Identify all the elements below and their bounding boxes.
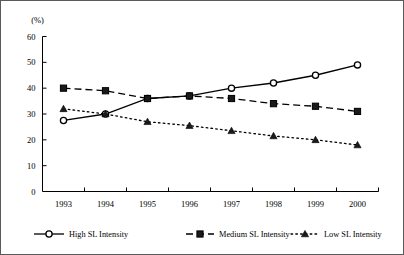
line-chart-svg: (%)0102030405060199319941995199619971998… — [1, 1, 404, 255]
series-marker-1 — [312, 103, 318, 109]
series-marker-0 — [312, 72, 318, 78]
x-axis-tick-label: 2000 — [349, 199, 366, 209]
x-axis-tick-label: 1997 — [223, 199, 240, 209]
y-axis-tick-label: 30 — [27, 109, 36, 119]
y-axis-tick-label: 10 — [27, 161, 36, 171]
series-marker-1 — [354, 108, 360, 114]
y-axis-tick-label: 0 — [31, 187, 35, 197]
y-axis-tick-label: 50 — [27, 57, 36, 67]
series-marker-2 — [60, 105, 67, 111]
x-axis-tick-label: 1996 — [181, 199, 198, 209]
x-axis-tick-label: 1994 — [97, 199, 115, 209]
y-axis-tick-label: 20 — [27, 135, 36, 145]
series-marker-2 — [270, 132, 277, 138]
series-marker-0 — [228, 85, 234, 91]
y-axis-unit-label: (%) — [31, 15, 44, 25]
x-axis-tick-label: 1998 — [265, 199, 282, 209]
series-marker-1 — [144, 95, 150, 101]
x-axis-tick-label: 1999 — [307, 199, 324, 209]
x-axis-tick-label: 1995 — [139, 199, 156, 209]
chart-figure: (%)0102030405060199319941995199619971998… — [0, 0, 404, 255]
series-marker-1 — [270, 101, 276, 107]
y-axis-tick-label: 60 — [27, 32, 36, 42]
legend-marker-1 — [197, 231, 203, 237]
series-marker-0 — [60, 117, 66, 123]
series-marker-0 — [354, 62, 360, 68]
legend-label-1: Medium SL Intensity — [219, 230, 291, 239]
series-marker-1 — [228, 95, 234, 101]
series-marker-1 — [102, 88, 108, 94]
y-axis-tick-label: 40 — [27, 83, 36, 93]
legend-marker-0 — [46, 231, 52, 237]
x-axis-tick-label: 1993 — [55, 199, 72, 209]
series-marker-1 — [60, 85, 66, 91]
series-marker-0 — [270, 80, 276, 86]
chart-plot-area: (%)0102030405060199319941995199619971998… — [1, 1, 404, 255]
series-marker-2 — [228, 127, 235, 133]
legend-label-0: High SL Intensity — [69, 230, 129, 239]
legend-label-2: Low SL Intensity — [324, 230, 383, 239]
series-marker-1 — [186, 93, 192, 99]
